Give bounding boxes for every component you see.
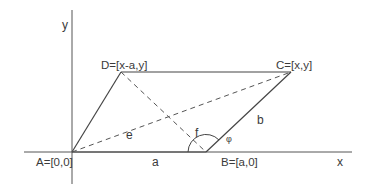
point-b-label: B=[a,0] [221,156,258,168]
diagonal-e [72,72,291,152]
side-a-label: a [152,155,159,169]
angle-phi-label: φ [226,134,232,144]
diagonal-f-label: f [195,126,199,140]
diagonal-e-label: e [126,128,133,142]
angle-arc-phi [188,134,219,152]
side-da [72,72,121,152]
point-d-label: D=[x-a,y] [101,59,147,71]
point-a-label: A=[0,0] [36,156,73,168]
x-axis-label: x [337,155,343,169]
point-c-label: C=[x,y] [276,59,312,71]
parallelogram-diagram: y x D=[x-a,y] C=[x,y] A=[0,0] B=[a,0] a … [0,0,382,189]
y-axis-label: y [62,18,68,32]
side-b-label: b [257,113,264,127]
